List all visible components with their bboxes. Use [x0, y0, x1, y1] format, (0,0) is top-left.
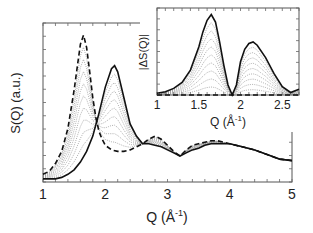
inset-x-tick-label: 2 [237, 98, 244, 112]
main-x-axis-label: Q (Å-1) [146, 208, 187, 225]
inset-plot: 11.522.5 [140, 0, 313, 132]
inset-y-axis-label: |ΔS(Q)| [137, 34, 149, 70]
inset-x-tick-label: 1.5 [190, 98, 207, 112]
inset-x-tick-label: 2.5 [274, 98, 291, 112]
main-x-tick-label: 2 [101, 186, 109, 202]
chart-figure: 12345 11.522.5 Q (Å-1) S(Q) (a.u.) Q (Å-… [0, 0, 313, 233]
main-x-tick-label: 1 [39, 186, 47, 202]
main-x-tick-label: 5 [288, 186, 296, 202]
main-x-tick-label: 3 [164, 186, 172, 202]
main-y-axis-label: S(Q) (a.u.) [8, 72, 23, 133]
inset-x-tick-label: 1 [154, 98, 161, 112]
main-x-tick-label: 4 [226, 186, 234, 202]
